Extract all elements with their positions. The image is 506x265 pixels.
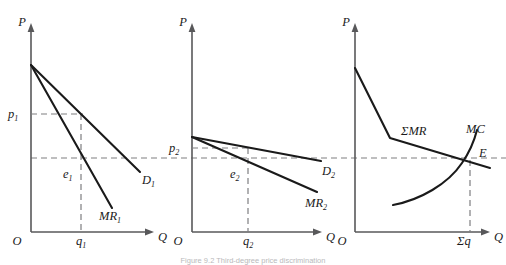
marginal-revenue-curve-2 bbox=[192, 137, 317, 192]
panel1-equilibrium-label: e1 bbox=[63, 167, 73, 183]
panel2-x-axis-label: Q bbox=[326, 230, 335, 244]
panel3-x-axis-label: Q bbox=[494, 230, 503, 244]
panel3-y-axis-label: P bbox=[341, 15, 350, 29]
panel1-x-axis-label: Q bbox=[158, 230, 167, 244]
marginal-cost-curve bbox=[393, 130, 477, 205]
marginal-revenue-curve-1-label: MR1 bbox=[98, 209, 121, 225]
marginal-revenue-curve-1 bbox=[31, 65, 112, 208]
marginal-cost-label: MC bbox=[465, 122, 485, 136]
demand-curve-2-label: D2 bbox=[321, 164, 335, 180]
demand-curve-1-label: D1 bbox=[141, 173, 155, 189]
price-discrimination-diagram: P Q O p1 q1 e1 D1 MR1 P Q O p2 q2 e2 D bbox=[0, 0, 506, 265]
figure-caption: Figure 9.2 Third-degree price discrimina… bbox=[0, 256, 506, 265]
panel3-x-axis-arrowhead bbox=[481, 229, 490, 236]
demand-curve-1 bbox=[31, 65, 140, 172]
panel3-quantity-label: Σq bbox=[456, 234, 471, 248]
panel1-quantity-label: q1 bbox=[76, 234, 86, 250]
marginal-revenue-curve-2-label: MR2 bbox=[304, 196, 327, 212]
panel3-origin-label: O bbox=[337, 234, 346, 248]
panel2-y-axis-label: P bbox=[178, 15, 187, 29]
panel-market-2: P Q O p2 q2 e2 D2 MR2 bbox=[168, 15, 335, 250]
panel1-y-axis-label: P bbox=[17, 15, 26, 29]
panel2-x-axis-arrowhead bbox=[313, 229, 322, 236]
panel2-equilibrium-label: e2 bbox=[230, 167, 240, 183]
figure-container: P Q O p1 q1 e1 D1 MR1 P Q O p2 q2 e2 D bbox=[0, 0, 506, 265]
panel-aggregate: P Q O ΣMR MC E Σq bbox=[337, 15, 503, 248]
panel1-origin-label: O bbox=[12, 234, 21, 248]
panel-market-1: P Q O p1 q1 e1 D1 MR1 bbox=[7, 15, 167, 250]
panel1-x-axis-arrowhead bbox=[145, 229, 154, 236]
sigma-marginal-revenue-curve bbox=[355, 68, 490, 168]
panel2-y-axis-arrowhead bbox=[189, 23, 196, 32]
panel1-y-axis-arrowhead bbox=[28, 23, 35, 32]
panel1-price-label: p1 bbox=[7, 107, 18, 123]
aggregate-equilibrium-label: E bbox=[478, 146, 487, 160]
panel2-quantity-label: q2 bbox=[243, 234, 253, 250]
panel3-y-axis-arrowhead bbox=[352, 23, 359, 32]
panel2-price-label: p2 bbox=[168, 141, 179, 157]
sigma-marginal-revenue-label: ΣMR bbox=[400, 124, 427, 138]
panel2-origin-label: O bbox=[173, 234, 182, 248]
